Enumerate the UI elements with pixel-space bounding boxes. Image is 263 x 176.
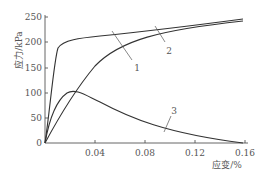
y-tick-250: 250 [25, 12, 42, 22]
x-tick-0.12: 0.12 [185, 148, 205, 158]
label-2: 2 [166, 46, 172, 56]
x-tick-0.08: 0.08 [135, 148, 155, 158]
x-tick-0.16: 0.16 [235, 148, 255, 158]
x-axis-label: 应变/% [212, 159, 242, 170]
label-1: 1 [134, 63, 140, 73]
y-tick-100: 100 [25, 88, 42, 98]
label-3: 3 [171, 106, 177, 116]
y-tick-200: 200 [25, 37, 42, 47]
x-tick-0.04: 0.04 [85, 148, 105, 158]
y-tick-150: 150 [25, 63, 42, 73]
y-tick-50: 50 [31, 113, 43, 123]
y-ticks: 0 50 100 150 200 250 [25, 12, 48, 148]
y-axis-label: 应力/kPa [13, 31, 24, 69]
stress-strain-chart: 0 50 100 150 200 250 0.04 0.08 0.12 0.16… [0, 0, 263, 176]
y-tick-0: 0 [36, 138, 42, 148]
leader-2 [155, 26, 165, 42]
curve-3 [45, 91, 243, 143]
leader-1 [112, 31, 132, 60]
